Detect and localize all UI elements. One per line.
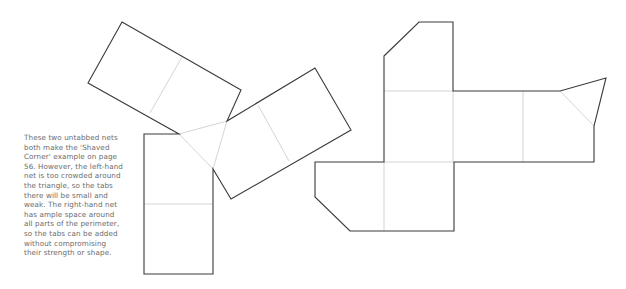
right-net (315, 22, 606, 231)
right-net-fold-triangle (560, 91, 594, 126)
left-net-fold-right-rect (258, 105, 289, 161)
left-net-fold-triangle-right (213, 121, 227, 169)
left-net-fold-upper-rect (150, 57, 182, 113)
left-net-fold-triangle-left (179, 134, 213, 169)
left-net-fold-triangle-top (179, 121, 227, 134)
left-net (88, 22, 351, 274)
nets-diagram (0, 0, 626, 289)
right-net-outline (315, 22, 606, 231)
